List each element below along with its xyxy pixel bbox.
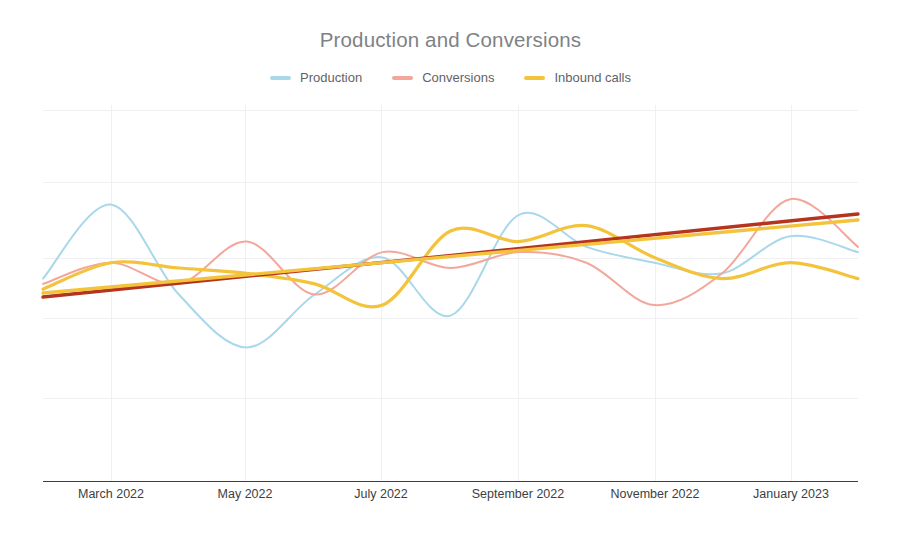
data-series-group xyxy=(43,199,858,348)
chart-container: Production and Conversions Production Co… xyxy=(0,0,901,533)
series-line-inbound-calls xyxy=(43,225,858,307)
trendline-group xyxy=(43,214,858,297)
x-axis-tick-label: November 2022 xyxy=(611,486,700,502)
series-line-conversions xyxy=(43,199,858,305)
x-axis-tick-label: May 2022 xyxy=(218,486,273,502)
x-axis-tick-label: September 2022 xyxy=(472,486,564,502)
x-axis-tick-label: July 2022 xyxy=(354,486,408,502)
x-axis-tick-label: January 2023 xyxy=(753,486,829,502)
plot-area xyxy=(0,0,901,533)
x-axis-tick-label: March 2022 xyxy=(78,486,144,502)
vertical-gridlines xyxy=(112,105,792,481)
